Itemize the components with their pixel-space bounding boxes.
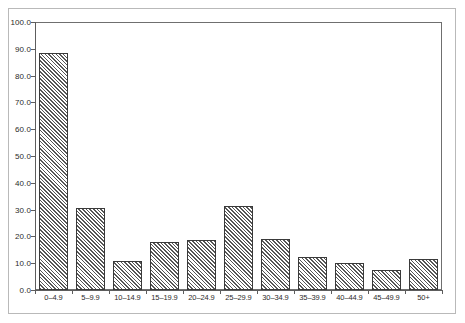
x-axis-tick-mark: [35, 291, 36, 294]
bar: [224, 206, 253, 290]
bar: [261, 239, 290, 290]
y-axis-tick-mark: [31, 236, 35, 237]
y-axis-tick-mark: [31, 49, 35, 50]
bar: [39, 53, 68, 290]
x-axis-tick-mark: [220, 291, 221, 294]
x-axis-line: [35, 290, 443, 291]
x-axis-tick-label: 30–34.9: [257, 293, 294, 302]
y-axis-tick-label: 10.0: [15, 259, 31, 268]
x-axis-tick-mark: [257, 291, 258, 294]
y-axis-tick-mark: [31, 263, 35, 264]
y-axis-tick-mark: [31, 129, 35, 130]
bars-layer: [35, 22, 442, 290]
y-axis-tick-labels: 0.010.020.030.040.050.060.070.080.090.01…: [0, 0, 31, 323]
y-axis-tick-label: 30.0: [15, 205, 31, 214]
x-axis-tick-labels: 0–4.95–9.910–14.915–19.920–24.925–29.930…: [35, 293, 442, 315]
bar: [335, 263, 364, 290]
y-axis-tick-mark: [31, 22, 35, 23]
x-axis-tick-label: 50+: [405, 293, 442, 302]
bar: [113, 261, 142, 290]
x-axis-tick-mark: [294, 291, 295, 294]
x-axis-tick-mark: [331, 291, 332, 294]
y-axis-tick-mark: [31, 102, 35, 103]
y-axis-tick-mark: [31, 210, 35, 211]
y-axis-tick-label: 80.0: [15, 71, 31, 80]
y-axis-tick-mark: [31, 156, 35, 157]
x-axis-tick-mark: [183, 291, 184, 294]
y-axis-tick-label: 50.0: [15, 152, 31, 161]
x-axis-tick-label: 25–29.9: [220, 293, 257, 302]
y-axis-tick-label: 40.0: [15, 178, 31, 187]
x-axis-tick-label: 40–44.9: [331, 293, 368, 302]
x-axis-tick-label: 0–4.9: [35, 293, 72, 302]
x-axis-tick-mark: [442, 291, 443, 294]
x-axis-tick-mark: [146, 291, 147, 294]
bar: [187, 240, 216, 290]
bar: [150, 242, 179, 290]
bar: [76, 208, 105, 290]
y-axis-tick-label: 90.0: [15, 44, 31, 53]
x-axis-tick-label: 10–14.9: [109, 293, 146, 302]
y-axis-tick-label: 70.0: [15, 98, 31, 107]
x-axis-tick-label: 20–24.9: [183, 293, 220, 302]
y-axis-tick-label: 60.0: [15, 125, 31, 134]
y-axis-tick-label: 0.0: [20, 286, 31, 295]
x-axis-tick-mark: [109, 291, 110, 294]
y-axis-tick-label: 20.0: [15, 232, 31, 241]
x-axis-tick-label: 5–9.9: [72, 293, 109, 302]
bar: [372, 270, 401, 290]
x-axis-tick-mark: [72, 291, 73, 294]
bar: [298, 257, 327, 291]
x-axis-tick-label: 45–49.9: [368, 293, 405, 302]
y-axis-tick-mark: [31, 76, 35, 77]
x-axis-tick-mark: [405, 291, 406, 294]
y-axis-tick-label: 100.0: [10, 18, 31, 27]
bar: [409, 259, 438, 290]
x-axis-tick-label: 15–19.9: [146, 293, 183, 302]
y-axis-tick-mark: [31, 183, 35, 184]
x-axis-tick-label: 35–39.9: [294, 293, 331, 302]
chart-figure: 0.010.020.030.040.050.060.070.080.090.01…: [0, 0, 465, 323]
x-axis-tick-mark: [368, 291, 369, 294]
